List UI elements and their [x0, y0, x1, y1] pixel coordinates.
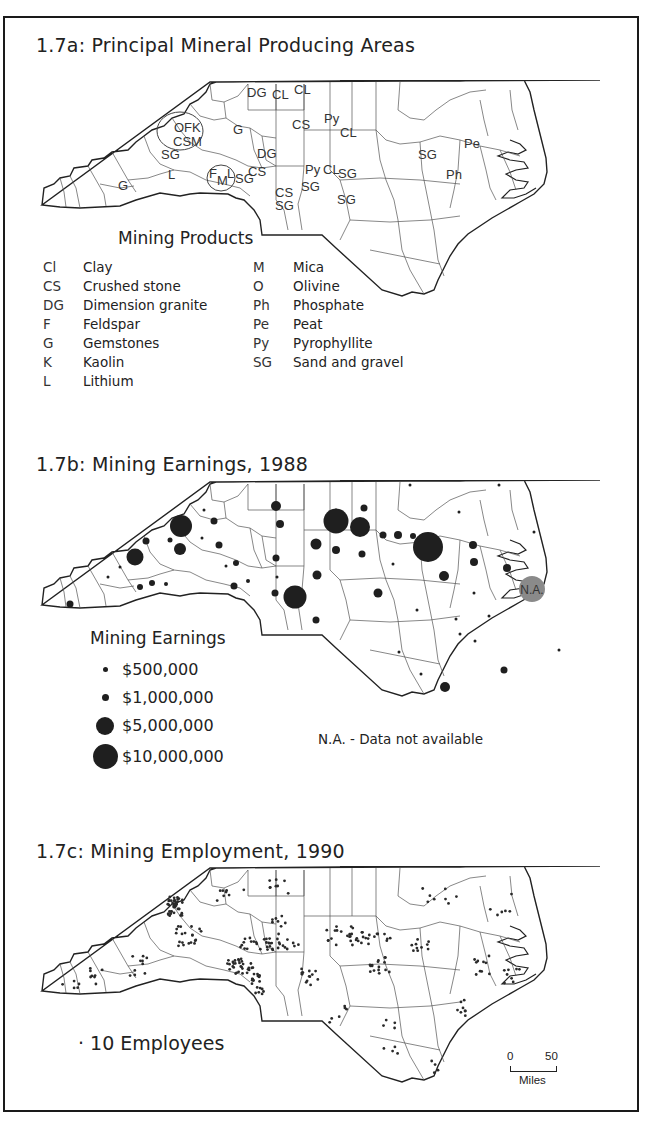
legend-code: Cl — [43, 259, 83, 275]
legend-code: O — [253, 278, 293, 294]
earnings-dot — [149, 580, 155, 586]
legend-code: CS — [43, 278, 83, 294]
scale-unit-label: Miles — [519, 1074, 546, 1086]
earnings-dot — [246, 579, 250, 583]
earnings-dot — [276, 576, 279, 579]
legend-code: K — [43, 354, 83, 370]
employment-legend: · 10 Employees — [78, 1032, 224, 1054]
earnings-dot — [311, 539, 322, 550]
earnings-dot — [313, 571, 322, 580]
legend-label: Sand and gravel — [293, 354, 403, 370]
legend-item: PyPyrophyllite — [253, 335, 373, 351]
earnings-dot — [374, 589, 383, 598]
earnings-legend-item: $10,000,000 — [88, 744, 224, 769]
earnings-legend-item: $1,000,000 — [88, 688, 214, 707]
svg-text:N.A.: N.A. — [520, 583, 543, 597]
earnings-dot — [410, 533, 416, 539]
mineral-code-label: SG — [418, 147, 437, 162]
scale-bar: 0 50 Miles — [505, 1050, 565, 1090]
earnings-dot — [558, 649, 561, 652]
legend-item: LLithium — [43, 373, 134, 389]
earnings-dot — [284, 586, 307, 609]
legend-code: F — [43, 316, 83, 332]
earnings-dot — [459, 633, 462, 636]
earnings-symbol-icon — [93, 744, 118, 769]
legend-item: PePeat — [253, 316, 323, 332]
earnings-dot — [211, 518, 218, 525]
earnings-dot — [137, 584, 143, 590]
earnings-dot — [533, 531, 536, 534]
legend-label: Gemstones — [83, 335, 159, 351]
earnings-dot — [470, 558, 478, 566]
legend-item: DGDimension granite — [43, 297, 207, 313]
mineral-code-label: SG — [338, 166, 357, 181]
legend-label: Feldspar — [83, 316, 140, 332]
legend-label: Clay — [83, 259, 112, 275]
mineral-code-label: DG — [247, 85, 267, 100]
earnings-legend-label: $500,000 — [122, 660, 198, 679]
legend-code: G — [43, 335, 83, 351]
earnings-dot — [225, 565, 228, 568]
earnings-dot — [271, 501, 281, 511]
mineral-code-label: Pe — [464, 136, 480, 151]
legend-label: Peat — [293, 316, 323, 332]
mining-products-legend-title: Mining Products — [118, 228, 253, 248]
earnings-dot — [350, 517, 370, 537]
earnings-dot — [392, 563, 395, 566]
earnings-dot — [380, 532, 387, 539]
scale-fifty-label: 50 — [545, 1050, 558, 1062]
earnings-dot — [168, 538, 173, 543]
earnings-dot — [276, 520, 284, 528]
earnings-dot — [501, 667, 508, 674]
earnings-dot — [272, 590, 279, 597]
mineral-code-label: Py — [305, 162, 321, 177]
earnings-dot — [119, 566, 122, 569]
mineral-code-label: SG — [301, 179, 320, 194]
earnings-dot — [398, 651, 401, 654]
mineral-code-label: CS — [292, 117, 310, 132]
earnings-dot — [201, 537, 204, 540]
mineral-code-label: G — [233, 122, 243, 137]
legend-label: Phosphate — [293, 297, 364, 313]
legend-code: L — [43, 373, 83, 389]
earnings-dot — [439, 571, 449, 581]
legend-item: CSCrushed stone — [43, 278, 181, 294]
earnings-dot — [332, 546, 340, 554]
legend-label: Lithium — [83, 373, 134, 389]
legend-code: Pe — [253, 316, 293, 332]
mining-earnings-legend-title: Mining Earnings — [90, 628, 226, 648]
earnings-dot — [324, 509, 349, 534]
legend-code: M — [253, 259, 293, 275]
earnings-dot — [164, 582, 168, 586]
scale-zero-label: 0 — [507, 1050, 513, 1062]
earnings-legend-item: $500,000 — [88, 660, 198, 679]
earnings-dot — [503, 564, 511, 572]
earnings-dot — [420, 673, 423, 676]
earnings-dot — [107, 576, 110, 579]
legend-item: GGemstones — [43, 335, 159, 351]
earnings-dot — [203, 509, 206, 512]
earnings-dot — [313, 617, 320, 624]
legend-label: Crushed stone — [83, 278, 181, 294]
legend-label: Dimension granite — [83, 297, 207, 313]
earnings-dot — [127, 549, 144, 566]
legend-item: MMica — [253, 259, 324, 275]
legend-code: Ph — [253, 297, 293, 313]
earnings-dot — [231, 583, 238, 590]
mineral-code-label: OFK — [174, 120, 201, 135]
earnings-dot — [458, 511, 461, 514]
earnings-dot — [361, 505, 368, 512]
earnings-dot — [469, 541, 477, 549]
mineral-code-label: CS — [248, 164, 266, 179]
earnings-dot — [170, 515, 192, 537]
earnings-symbol-icon — [102, 694, 109, 701]
mineral-code-label: Ph — [446, 167, 462, 182]
mineral-code-label: SG — [337, 192, 356, 207]
earnings-dot — [394, 531, 402, 539]
mineral-code-label: CL — [340, 125, 357, 140]
legend-code: DG — [43, 297, 83, 313]
legend-label: Mica — [293, 259, 324, 275]
na-note: N.A. - Data not available — [318, 731, 483, 747]
legend-item: KKaolin — [43, 354, 124, 370]
mineral-code-label: CL — [272, 87, 289, 102]
